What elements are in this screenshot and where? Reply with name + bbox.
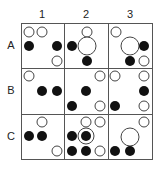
white-circle-icon bbox=[139, 101, 149, 111]
black-dot-icon bbox=[52, 41, 62, 51]
black-dot-icon bbox=[67, 41, 77, 51]
cell-c3 bbox=[110, 117, 149, 156]
black-dot-icon bbox=[110, 146, 120, 156]
black-dot-icon bbox=[82, 56, 92, 66]
cell-a2 bbox=[67, 27, 96, 66]
white-circle-icon bbox=[24, 27, 34, 37]
white-circle-icon bbox=[95, 146, 105, 156]
black-dot-icon bbox=[81, 131, 91, 141]
black-dot-icon bbox=[52, 86, 62, 96]
black-dot-icon bbox=[37, 86, 47, 96]
cell-b2 bbox=[67, 71, 105, 111]
puzzle-grid bbox=[0, 0, 161, 169]
black-dot-icon bbox=[67, 146, 77, 156]
white-circle-icon bbox=[110, 71, 120, 81]
black-dot-icon bbox=[81, 86, 91, 96]
white-circle-icon bbox=[139, 117, 149, 127]
black-dot-icon bbox=[110, 101, 120, 111]
black-dot-icon bbox=[125, 56, 135, 66]
cell-c2 bbox=[67, 117, 105, 156]
black-dot-icon bbox=[125, 146, 135, 156]
cell-b3 bbox=[110, 71, 149, 111]
white-circle-icon bbox=[52, 56, 62, 66]
black-dot-icon bbox=[139, 86, 149, 96]
white-circle-icon bbox=[95, 71, 105, 81]
white-circle-icon bbox=[24, 71, 34, 81]
black-dot-icon bbox=[67, 101, 77, 111]
white-circle-icon bbox=[111, 27, 121, 37]
cell-a1 bbox=[24, 27, 62, 66]
black-dot-icon bbox=[24, 41, 34, 51]
cell-a3 bbox=[111, 27, 149, 66]
white-circle-icon bbox=[95, 117, 105, 127]
large-white-circle-icon bbox=[121, 37, 139, 55]
white-circle-icon bbox=[139, 56, 149, 66]
large-white-circle-icon bbox=[121, 128, 139, 146]
cell-b1 bbox=[24, 71, 62, 96]
white-circle-icon bbox=[81, 117, 91, 127]
white-circle-icon bbox=[37, 117, 47, 127]
white-circle-icon bbox=[82, 27, 92, 37]
black-dot-icon bbox=[24, 131, 34, 141]
white-circle-icon bbox=[37, 27, 47, 37]
white-circle-icon bbox=[139, 71, 149, 81]
black-dot-icon bbox=[139, 41, 149, 51]
white-circle-icon bbox=[95, 101, 105, 111]
black-dot-icon bbox=[81, 146, 91, 156]
large-white-circle-icon bbox=[78, 37, 96, 55]
black-dot-icon bbox=[67, 131, 77, 141]
cell-c1 bbox=[24, 117, 62, 156]
black-dot-icon bbox=[37, 131, 47, 141]
white-circle-icon bbox=[52, 146, 62, 156]
